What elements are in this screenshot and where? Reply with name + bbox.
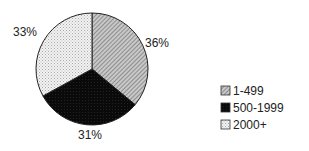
slice-label-1-499: 36%: [145, 36, 169, 50]
slice-label-500-1999: 31%: [78, 128, 102, 142]
legend-swatch-2000plus: [221, 120, 230, 129]
pie-chart: 36% 31% 33% 1-499 500-1999 2000+: [0, 0, 309, 151]
legend-label-2000plus: 2000+: [233, 118, 267, 132]
legend-swatch-500-1999: [221, 103, 230, 112]
legend-label-1-499: 1-499: [233, 84, 264, 98]
legend-swatch-1-499: [221, 86, 230, 95]
legend: 1-499 500-1999 2000+: [221, 84, 284, 132]
pie-slices: [36, 13, 148, 125]
slice-label-2000plus: 33%: [13, 25, 37, 39]
legend-label-500-1999: 500-1999: [233, 101, 284, 115]
